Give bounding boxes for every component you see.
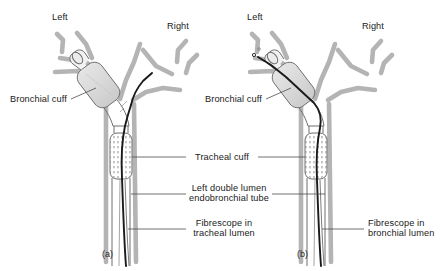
panel-b-left-label: Left — [247, 12, 263, 23]
figure-container: Left Right Left Right Bronchial cuff Bro… — [0, 0, 445, 271]
panel-b-bronchial-cuff-label: Bronchial cuff — [205, 94, 262, 105]
fibrescope-tracheal-label-line2: tracheal lumen — [190, 228, 258, 239]
endobronchial-tube-label-line2: endobronchial tube — [189, 193, 269, 204]
panel-a-tag: (a) — [102, 249, 113, 259]
tracheal-cuff-label: Tracheal cuff — [190, 152, 254, 163]
panel-b-endobronchial-tube — [265, 50, 327, 266]
fibrescope-bronchial-label-line1: Fibrescope in — [368, 218, 424, 229]
panel-a-right-label: Right — [167, 21, 189, 32]
panel-b-right-label: Right — [362, 21, 384, 32]
panel-a-bronchial-cuff-label: Bronchial cuff — [10, 94, 67, 105]
panel-b-tag: (b) — [297, 249, 308, 259]
fibrescope-bronchial-label-line2: bronchial lumen — [368, 228, 434, 239]
panel-a-left-label: Left — [52, 12, 68, 23]
panel-a-bronchial-cuff — [77, 62, 119, 107]
fibrescope-tracheal-label-line1: Fibrescope in — [190, 218, 258, 229]
panel-b-right-bronchus — [372, 41, 392, 73]
panel-a-endobronchial-tube — [70, 50, 132, 266]
endobronchial-tube-label-line1: Left double lumen — [189, 183, 269, 194]
panel-a-right-bronchus — [177, 41, 197, 73]
